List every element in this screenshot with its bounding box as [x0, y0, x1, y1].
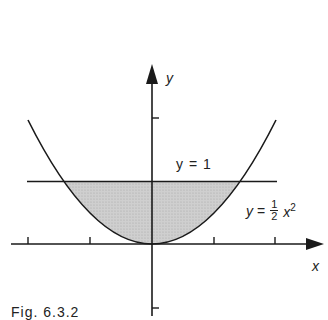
curve-label-exponent: 2 [290, 202, 296, 213]
x-axis-arrow-icon [306, 238, 324, 250]
curve-label-lhs: y [246, 203, 253, 219]
x-axis-label: x [312, 258, 319, 274]
y-axis-arrow-icon [146, 64, 158, 84]
line-label: y = 1 [176, 156, 212, 172]
y-axis-label: y [166, 70, 173, 86]
fraction-denominator: 2 [271, 211, 277, 222]
curve-label-fraction: 1 2 [270, 199, 278, 222]
figure-caption: Fig. 6.3.2 [11, 304, 79, 320]
curve-label: y = 1 2 x2 [246, 199, 296, 222]
curve-label-eq: = [257, 203, 265, 219]
